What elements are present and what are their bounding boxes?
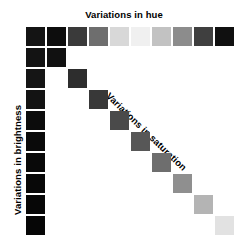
color-swatch bbox=[26, 174, 45, 193]
color-variation-figure: Variations in hue Variations in brightne… bbox=[0, 0, 248, 250]
color-swatch bbox=[152, 27, 171, 46]
color-swatch bbox=[194, 27, 213, 46]
brightness-axis-title: Variations in brightness bbox=[13, 35, 25, 215]
color-swatch bbox=[68, 27, 87, 46]
color-swatch bbox=[26, 90, 45, 109]
color-swatch bbox=[110, 111, 129, 130]
color-swatch bbox=[110, 27, 129, 46]
color-swatch bbox=[26, 195, 45, 214]
color-swatch-grid bbox=[26, 27, 238, 239]
color-swatch bbox=[131, 27, 150, 46]
color-swatch bbox=[89, 27, 108, 46]
color-swatch bbox=[26, 216, 45, 235]
color-swatch bbox=[68, 69, 87, 88]
color-swatch bbox=[131, 132, 150, 151]
color-swatch bbox=[173, 174, 192, 193]
color-swatch bbox=[26, 48, 45, 67]
color-swatch bbox=[26, 69, 45, 88]
color-swatch bbox=[173, 27, 192, 46]
color-swatch bbox=[26, 153, 45, 172]
color-swatch bbox=[194, 195, 213, 214]
color-swatch bbox=[47, 48, 66, 67]
color-swatch bbox=[47, 27, 66, 46]
hue-axis-title: Variations in hue bbox=[0, 10, 248, 20]
color-swatch bbox=[152, 153, 171, 172]
color-swatch bbox=[215, 27, 234, 46]
color-swatch bbox=[26, 27, 45, 46]
color-swatch bbox=[26, 132, 45, 151]
color-swatch bbox=[89, 90, 108, 109]
color-swatch bbox=[26, 111, 45, 130]
color-swatch bbox=[215, 216, 234, 235]
